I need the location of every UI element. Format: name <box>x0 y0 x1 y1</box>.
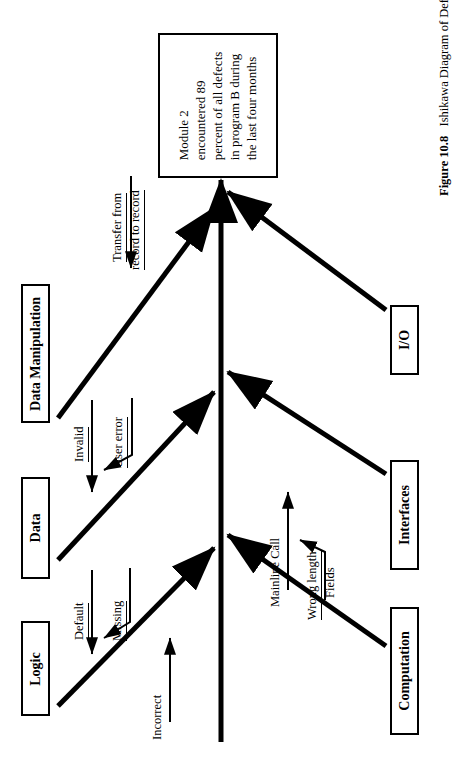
category-box-logic: Logic <box>21 621 50 716</box>
figure-caption: Figure 10.8 Ishikawa Diagram of Defect C… <box>437 0 452 196</box>
category-label-data: Data <box>28 514 44 543</box>
cause-label-transfer-from: Transfer from <box>110 193 127 262</box>
effect-box: Module 2 encountered 89 percent of all d… <box>158 33 278 178</box>
cause-label-incorrect: Incorrect <box>150 695 165 740</box>
category-label-data-manipulation: Data Manipulation <box>28 297 44 411</box>
category-box-io: I/O <box>390 305 419 375</box>
category-label-io: I/O <box>397 330 413 350</box>
cause-label-fields: Fields <box>323 567 338 598</box>
cause-label-missing: Missing <box>110 601 127 641</box>
cause-label-default: Default <box>72 603 89 640</box>
effect-line-3: percent of all defects <box>210 51 225 160</box>
category-label-computation: Computation <box>397 631 413 710</box>
effect-text: Module 2 encountered 89 percent of all d… <box>176 51 260 160</box>
figure-caption-title: Ishikawa Diagram of Defect Causes <box>437 0 451 126</box>
bone-interfaces <box>228 372 386 474</box>
effect-line-5: the last four months <box>243 56 258 160</box>
effect-line-2: encountered 89 <box>193 80 208 160</box>
cause-label-invalid: Invalid <box>72 427 89 462</box>
effect-line-1: Module 2 <box>176 110 191 160</box>
cause-label-mainline-call: Mainline Call <box>268 538 283 607</box>
category-label-interfaces: Interfaces <box>397 485 413 545</box>
cause-label-user-error: User error <box>111 417 128 468</box>
category-box-data: Data <box>21 477 50 579</box>
category-label-logic: Logic <box>28 652 44 685</box>
category-box-computation: Computation <box>390 607 419 735</box>
bone-io <box>228 192 386 310</box>
figure-caption-number: Figure 10.8 <box>437 136 451 196</box>
bone-data <box>58 392 214 560</box>
effect-line-4: in program B during <box>226 53 241 160</box>
category-box-interfaces: Interfaces <box>390 460 419 570</box>
category-box-data-manipulation: Data Manipulation <box>21 284 50 423</box>
cause-label-wrong-length: Wrong length <box>305 551 322 620</box>
cause-label-record-to-record: record to record <box>128 190 145 270</box>
ishikawa-diagram: Module 2 encountered 89 percent of all d… <box>0 0 464 764</box>
